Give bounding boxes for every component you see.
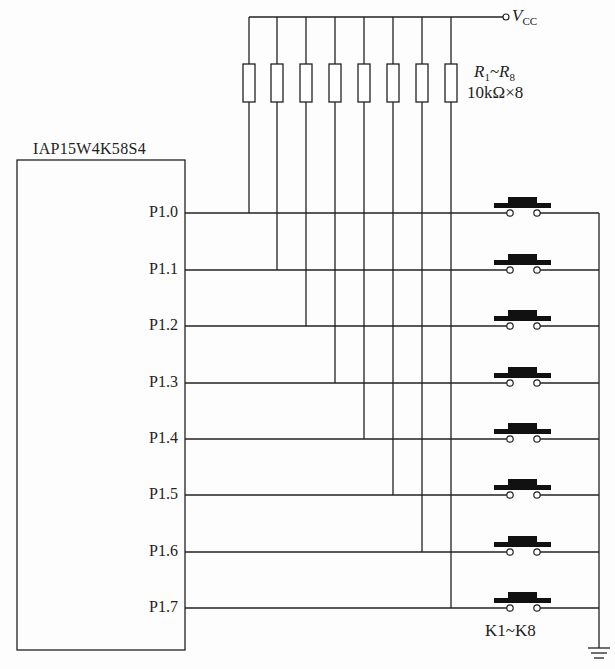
resistor-r7-icon	[416, 64, 428, 102]
pull-up-resistors	[243, 17, 457, 608]
resistor-r1-icon	[243, 64, 255, 102]
key-switches	[185, 197, 599, 611]
resistor-r8-icon	[445, 64, 457, 102]
resistor-r6-icon	[387, 64, 399, 102]
vcc-label: VCC	[512, 6, 537, 27]
pin-label-p1-6: P1.6	[118, 542, 178, 560]
pin-label-p1-4: P1.4	[118, 429, 178, 447]
resistor-r4-icon	[329, 64, 341, 102]
pin-label-p1-0: P1.0	[118, 203, 178, 221]
vcc-terminal-icon	[503, 14, 509, 20]
pin-label-p1-7: P1.7	[118, 598, 178, 616]
switch-range-label: K1~K8	[485, 621, 536, 641]
resistor-range-label: R1~R8	[474, 62, 515, 83]
resistor-r3-icon	[300, 64, 312, 102]
pin-label-p1-3: P1.3	[118, 373, 178, 391]
schematic-canvas: IAP15W4K58S4 P1.0 P1.1 P1.2 P1.3 P1.4 P1…	[0, 0, 615, 669]
resistor-value-label: 10kΩ×8	[467, 83, 523, 103]
pin-label-p1-1: P1.1	[118, 260, 178, 278]
pin-label-p1-5: P1.5	[118, 485, 178, 503]
resistor-r2-icon	[271, 64, 283, 102]
pin-label-p1-2: P1.2	[118, 316, 178, 334]
chip-name: IAP15W4K58S4	[33, 140, 146, 158]
resistor-r5-icon	[358, 64, 370, 102]
mcu-chip-body	[17, 160, 185, 650]
ground-icon	[588, 648, 610, 658]
